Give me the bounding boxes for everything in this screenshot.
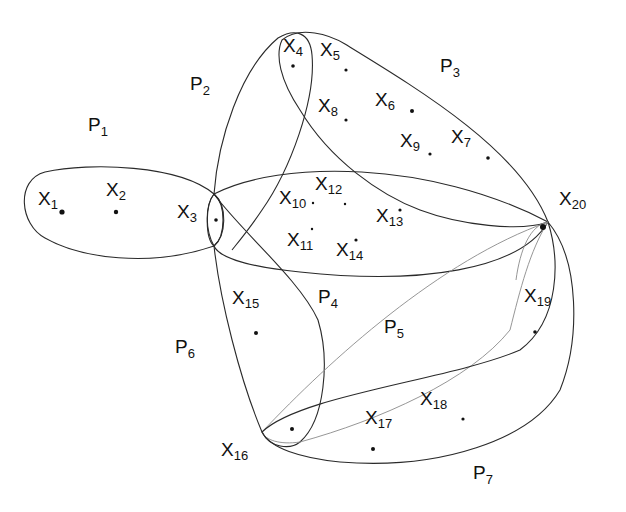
vertex-x17-label: X17: [365, 407, 392, 431]
vertex-x11-label: X11: [287, 229, 313, 253]
vertex-x12-label: X12: [315, 173, 342, 197]
hypergraph-diagram: X1 X2 X3 X4 X5 X6 X7 X8 X9 X10 X11 X12 X…: [0, 0, 626, 512]
hyperedge-p2-outline: [214, 33, 312, 250]
vertex-x2-label: X2: [106, 179, 126, 203]
vertex-x19-dot: [533, 330, 537, 334]
vertex-x3-dot: [214, 218, 218, 222]
vertex-x18-dot: [461, 417, 464, 420]
vertex-x1-dot: [59, 209, 64, 214]
hyperedge-p5-label: P5: [384, 316, 404, 341]
vertex-x8-label: X8: [318, 95, 338, 119]
vertex-x5-dot: [344, 68, 347, 71]
vertex-x12-dot: [344, 203, 346, 205]
vertex-x14-label: X14: [336, 239, 363, 263]
vertex-x19-label: X19: [524, 285, 551, 309]
vertex-x4-label: X4: [283, 35, 303, 59]
hyperedge-p6-label: P6: [175, 336, 195, 361]
hyperedge-p3-outline: [279, 32, 548, 226]
vertex-x9-dot: [428, 152, 431, 155]
vertex-x10-dot: [312, 202, 314, 204]
vertex-x15-dot: [254, 331, 258, 335]
vertex-x2-dot: [114, 210, 118, 214]
vertex-x20-label: X20: [559, 188, 586, 212]
hyperedge-p3-label: P3: [440, 55, 460, 80]
vertex-x17-dot: [371, 447, 375, 451]
vertex-x13-label: X13: [376, 205, 403, 229]
vertex-x5-label: X5: [320, 39, 340, 63]
vertex-x16-label: X16: [221, 439, 248, 463]
vertex-x10-label: X10: [279, 187, 306, 211]
vertex-x3-label: X3: [177, 201, 197, 225]
vertex-x6-label: X6: [375, 89, 395, 113]
vertex-x16-dot: [290, 427, 294, 431]
hyperedge-p7-outline: [262, 222, 574, 463]
vertex-x1-label: X1: [38, 188, 58, 212]
hyperedge-p5-outline: [262, 222, 548, 443]
vertex-x11-dot: [311, 228, 313, 230]
vertex-x9-label: X9: [400, 130, 420, 154]
vertex-labels: X1 X2 X3 X4 X5 X6 X7 X8 X9 X10 X11 X12 X…: [38, 35, 586, 463]
vertex-x7-dot: [486, 156, 490, 160]
vertex-x8-dot: [344, 118, 347, 121]
vertex-x20-dot: [540, 224, 546, 230]
vertex-x18-label: X18: [420, 388, 447, 412]
hyperedge-p6-outline: [214, 194, 324, 447]
vertex-x15-label: X15: [232, 287, 259, 311]
hyperedge-p7-label: P7: [473, 462, 493, 487]
vertex-x4-dot: [291, 64, 295, 68]
hyperedge-p2-label: P2: [190, 73, 210, 98]
hyperedge-p1-label: P1: [88, 114, 108, 139]
vertex-x6-dot: [410, 109, 414, 113]
hyperedge-p4-label: P4: [318, 286, 338, 311]
vertex-x13-dot: [398, 208, 401, 211]
vertex-x14-dot: [354, 238, 357, 241]
vertex-x7-label: X7: [451, 126, 471, 150]
